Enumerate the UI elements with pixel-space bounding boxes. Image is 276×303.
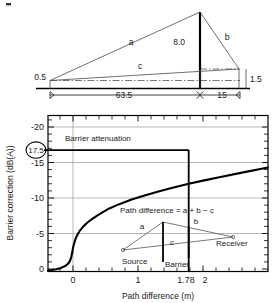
attenuation-annotation: Barrier attenuation (65, 134, 131, 143)
path-difference-inset: Path difference = a + b − c a b c Source… (120, 206, 248, 269)
corner-mark (6, 3, 11, 5)
x-axis-title: Path difference (m) (122, 291, 194, 301)
path-b-line (200, 12, 239, 69)
xtick-label-2: 2 (202, 275, 207, 285)
barrier-correction-chart: -20 -15 -10 -5 0 (5, 116, 268, 302)
inset-label-c: c (170, 238, 174, 247)
barrier-correction-curve (48, 168, 268, 271)
figure-svg: 63.5 15 a b c 8.0 1.5 0.5 (0, 0, 276, 303)
source-height-label: 0.5 (34, 72, 46, 82)
inset-label-b: b (194, 217, 199, 226)
dim-63p5-label: 63.5 (116, 90, 133, 100)
ytick-label-0: -20 (31, 122, 44, 132)
receiver-height-label: 1.5 (250, 74, 262, 84)
path-c-label: c (138, 61, 143, 71)
inset-label-a: a (140, 222, 145, 231)
xtick-label-1: 1 (135, 275, 140, 285)
ytick-label-4: 0 (39, 264, 44, 274)
xtick-label-1p78: 1.78 (177, 275, 195, 285)
ytick-label-2: -10 (31, 193, 44, 203)
inset-title: Path difference = a + b − c (120, 206, 214, 215)
barrier-geometry-diagram: 63.5 15 a b c 8.0 1.5 0.5 (6, 3, 262, 100)
path-b-label: b (225, 32, 230, 42)
xtick-label-0: 0 (70, 275, 75, 285)
path-a-label: a (129, 37, 134, 47)
highlight-value-label: 17.5 (28, 146, 44, 155)
ytick-label-3: -5 (36, 229, 44, 239)
figure-root: 63.5 15 a b c 8.0 1.5 0.5 (0, 0, 276, 303)
ytick-label-1: -15 (31, 158, 44, 168)
inset-label-barrier: Barrier (165, 260, 189, 269)
y-axis-title: Barrier correction (dB(A)) (5, 145, 15, 240)
inset-label-receiver: Receiver (216, 239, 248, 248)
barrier-height-label: 8.0 (173, 37, 185, 47)
inset-label-source: Source (122, 257, 148, 266)
dim-15-label: 15 (217, 90, 227, 100)
path-c-line (50, 69, 239, 81)
